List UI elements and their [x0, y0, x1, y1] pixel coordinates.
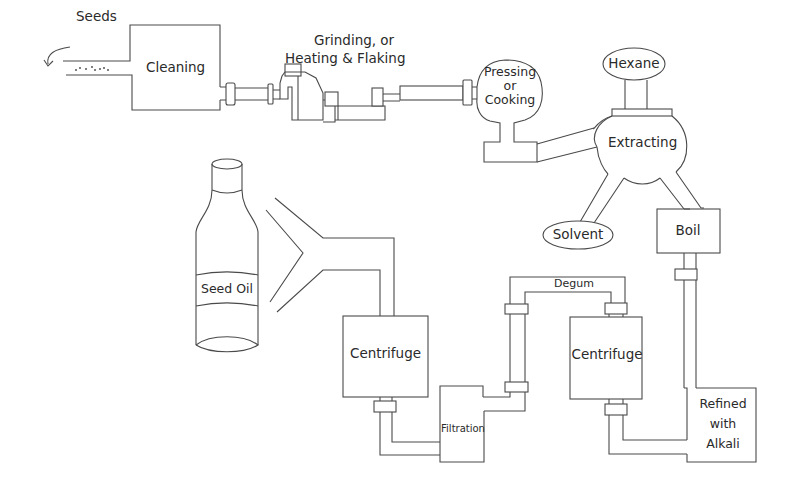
diagram-drawing — [0, 0, 794, 486]
grinder-machine — [280, 64, 395, 122]
seeds-label: Seeds — [76, 9, 117, 25]
centrifuge-left-label: Centrifuge — [343, 346, 428, 362]
refined-label-line2: with — [694, 417, 752, 431]
process-diagram: Seeds Cleaning Grinding, or Heating & Fl… — [0, 0, 794, 486]
grinding-label-line1: Grinding, or — [314, 33, 394, 49]
boil-label: Boil — [668, 223, 708, 239]
filtration-label: Filtration — [438, 423, 488, 435]
cleaning-label: Cleaning — [146, 60, 205, 76]
pressing-label-line3: Cooking — [482, 93, 538, 107]
cleaning-inlet-chute — [63, 25, 220, 87]
refined-label-line1: Refined — [694, 397, 752, 411]
degum-label: Degum — [544, 278, 604, 291]
grinding-label-line2: Heating & Flaking — [285, 51, 406, 67]
seeds-arrow-icon — [44, 47, 70, 66]
seed-particles-icon — [75, 66, 109, 71]
output-funnel — [266, 198, 394, 312]
seed-oil-bottle — [196, 159, 258, 352]
hexane-label: Hexane — [606, 56, 662, 72]
refined-label-line3: Alkali — [694, 437, 752, 451]
solvent-label: Solvent — [546, 227, 610, 243]
extracting-label: Extracting — [608, 135, 672, 151]
seed-oil-label: Seed Oil — [196, 282, 258, 296]
centrifuge-right-label: Centrifuge — [571, 347, 643, 363]
